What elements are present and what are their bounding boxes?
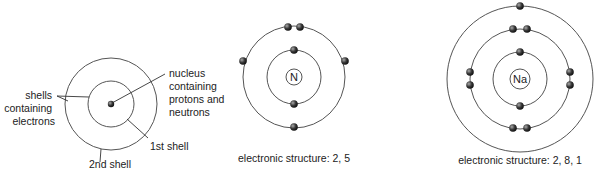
shells-label: shells containing electrons: [4, 89, 55, 127]
nucleus-label: nucleus containing protons and neutrons: [169, 67, 227, 118]
sodium-caption: electronic structure: 2, 8, 1: [458, 154, 582, 166]
electron: [509, 25, 517, 33]
electron: [296, 23, 304, 31]
electron: [466, 81, 474, 89]
electron: [566, 81, 574, 89]
electron: [239, 57, 247, 65]
electron: [566, 68, 574, 76]
nitrogen-atom: N electronic structure: 2, 5: [238, 23, 350, 164]
electron: [341, 57, 349, 65]
electron: [516, 102, 524, 110]
nitrogen-symbol: N: [290, 71, 298, 83]
electron: [516, 2, 524, 10]
generic-atom: shells containing electrons nucleus cont…: [4, 58, 227, 170]
sodium-atom: Na electronic structure: 2, 8, 1: [447, 2, 593, 166]
electron: [466, 68, 474, 76]
first-shell-label: 1st shell: [150, 140, 189, 152]
first-shell-leader-line: [127, 119, 148, 138]
electron: [516, 48, 524, 56]
nucleus-dot: [108, 101, 114, 107]
electron: [290, 46, 298, 54]
shells-leader-line-outer: [57, 96, 68, 101]
electron: [523, 25, 531, 33]
sodium-symbol: Na: [513, 73, 528, 85]
electron: [509, 124, 517, 132]
electron: [523, 124, 531, 132]
shells-leader-line-inner: [57, 96, 89, 97]
electron: [290, 123, 298, 131]
electron: [290, 100, 298, 108]
second-shell-label: 2nd shell: [89, 158, 131, 170]
electron: [284, 23, 292, 31]
nitrogen-caption: electronic structure: 2, 5: [238, 152, 350, 164]
atomic-structure-diagram: shells containing electrons nucleus cont…: [0, 0, 596, 174]
